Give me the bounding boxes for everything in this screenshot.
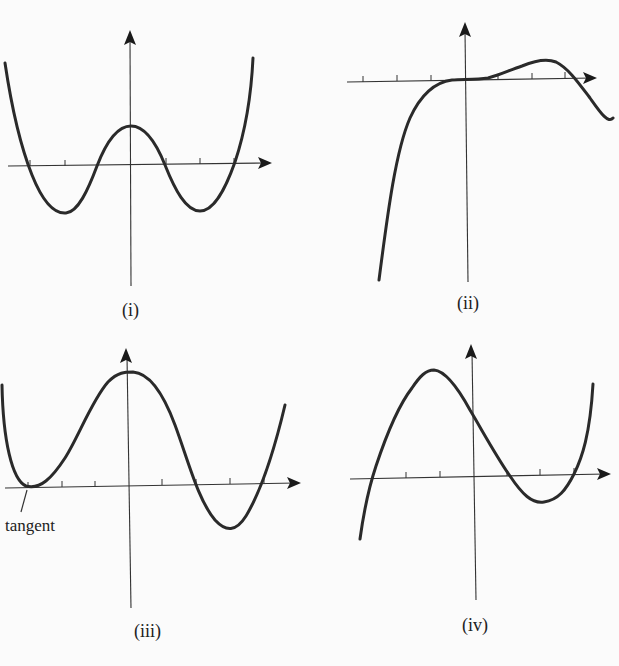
x-axis <box>350 474 606 479</box>
x-axis <box>5 483 296 488</box>
x-axis <box>8 163 268 166</box>
curve-iii <box>2 372 285 529</box>
caption-iv: (iv) <box>462 615 488 636</box>
curve-iv <box>360 370 593 539</box>
caption-ii: (ii) <box>457 293 479 314</box>
y-axis <box>472 352 476 600</box>
tangent-label: tangent <box>5 516 55 535</box>
y-axis <box>130 38 131 286</box>
graph-i: (i) <box>5 30 272 321</box>
caption-iii: (iii) <box>134 621 161 642</box>
tangent-annotation: tangent <box>5 490 55 535</box>
y-axis <box>127 356 131 608</box>
y-axis-arrow-icon <box>120 348 132 363</box>
curve-ii <box>379 60 613 280</box>
caption-i: (i) <box>122 300 139 321</box>
y-axis <box>465 30 468 282</box>
figure-canvas: (i) (ii) <box>0 0 619 666</box>
tangent-leader-line <box>21 490 27 512</box>
graph-iv: (iv) <box>350 344 611 636</box>
graph-iii: tangent (iii) <box>2 348 301 642</box>
y-axis-arrow-icon <box>465 344 477 359</box>
graph-ii: (ii) <box>347 22 613 314</box>
curve-i <box>5 58 253 213</box>
